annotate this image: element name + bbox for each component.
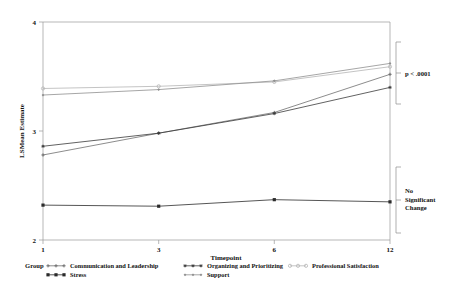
- data-point-marker: [157, 132, 160, 135]
- x-tick-label-1: 1: [41, 246, 45, 254]
- legend-item-label: Professional Satisfaction: [312, 262, 379, 269]
- plot-frame: [43, 22, 390, 240]
- y-axis-ticks: 4 3 2: [33, 19, 44, 245]
- data-point-marker: [388, 86, 391, 89]
- upper-annotation-label: p < .0001: [405, 70, 431, 77]
- legend-item-label: Organizing and Prioritizing: [207, 262, 284, 269]
- legend-swatch-marker: [54, 273, 57, 276]
- legend-swatch-marker: [184, 273, 187, 276]
- legend-item-stress[interactable]: Stress: [46, 271, 86, 278]
- legend-swatch-marker: [192, 273, 195, 276]
- legend-item-support[interactable]: Support: [184, 271, 231, 278]
- legend-item-label: Support: [207, 271, 230, 278]
- data-point-marker: [389, 62, 392, 65]
- series-layer: [41, 62, 391, 208]
- y-tick-label-3: 3: [33, 128, 37, 136]
- chart-figure: 4 3 2 1 3 6 12 Timepoint LSMean Estimate…: [0, 0, 453, 290]
- legend: Group Communication and LeadershipStress…: [25, 262, 379, 278]
- legend-title: Group: [25, 262, 44, 269]
- legend-item-professional-satisfaction[interactable]: Professional Satisfaction: [288, 262, 379, 269]
- legend-swatch-marker: [183, 264, 186, 267]
- lower-annotation-line-3: Change: [405, 204, 427, 211]
- series-3: [41, 198, 391, 208]
- lower-annotation-line-1: No: [405, 187, 414, 194]
- line-chart-canvas: 4 3 2 1 3 6 12 Timepoint LSMean Estimate…: [0, 0, 453, 290]
- legend-swatch-marker: [46, 273, 49, 276]
- legend-swatch-marker: [200, 273, 203, 276]
- y-tick-label-4: 4: [33, 19, 37, 27]
- data-point-marker: [273, 112, 276, 115]
- lower-significance-bracket: No Significant Change: [396, 167, 436, 233]
- legend-swatch-marker: [191, 264, 194, 267]
- x-tick-label-12: 12: [387, 246, 395, 254]
- x-tick-label-3: 3: [157, 246, 161, 254]
- data-point-marker: [41, 153, 44, 156]
- legend-item-label: Stress: [70, 271, 87, 278]
- y-axis-title: LSMean Estimate: [18, 104, 26, 158]
- legend-swatch-marker: [62, 273, 65, 276]
- data-point-marker: [273, 198, 276, 201]
- data-point-marker: [42, 94, 45, 97]
- series-1: [41, 86, 391, 148]
- data-point-marker: [41, 204, 44, 207]
- legend-item-organizing-and-prioritizing[interactable]: Organizing and Prioritizing: [183, 262, 283, 269]
- y-tick-label-2: 2: [33, 237, 37, 245]
- x-tick-label-6: 6: [273, 246, 277, 254]
- data-point-marker: [157, 88, 160, 91]
- data-point-marker: [41, 145, 44, 148]
- data-point-marker: [388, 200, 391, 203]
- x-axis-ticks: 1 3 6 12: [41, 240, 394, 254]
- legend-item-label: Communication and Leadership: [70, 262, 159, 269]
- lower-annotation-line-2: Significant: [405, 196, 436, 203]
- x-axis-title: Timepoint: [211, 254, 243, 262]
- data-point-marker: [388, 73, 391, 76]
- upper-significance-bracket: p < .0001: [396, 42, 431, 104]
- legend-swatch-marker: [199, 264, 202, 267]
- legend-swatch-marker: [46, 264, 49, 267]
- series-2: [41, 65, 391, 90]
- legend-swatch-marker: [54, 264, 57, 267]
- data-point-marker: [157, 205, 160, 208]
- legend-swatch-marker: [62, 264, 65, 267]
- legend-item-communication-and-leadership[interactable]: Communication and Leadership: [46, 262, 158, 269]
- legend-entries: Communication and LeadershipStressOrgani…: [46, 262, 379, 278]
